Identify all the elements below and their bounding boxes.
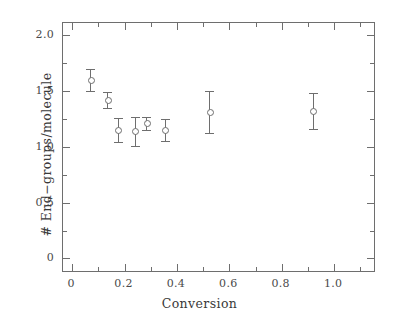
data-marker — [132, 128, 139, 135]
y-tick-major — [63, 91, 70, 92]
y-tick-minor-right — [370, 63, 374, 64]
y-tick-major — [63, 258, 70, 259]
x-tick-label: 0.4 — [167, 277, 185, 290]
error-bar-cap-upper — [103, 92, 112, 93]
x-tick-major — [72, 264, 73, 271]
data-marker — [162, 127, 169, 134]
x-tick-minor-top — [98, 23, 99, 27]
x-tick-major-top — [125, 23, 126, 30]
y-tick-major — [63, 147, 70, 148]
y-tick-minor — [63, 63, 67, 64]
error-bar-cap-lower — [142, 130, 151, 131]
y-tick-minor — [63, 119, 67, 120]
error-bar-cap-upper — [309, 93, 318, 94]
x-tick-label: 0 — [68, 277, 75, 290]
data-marker — [144, 120, 151, 127]
y-tick-major-right — [367, 147, 374, 148]
y-tick-minor-right — [370, 175, 374, 176]
y-tick-major-right — [367, 35, 374, 36]
x-tick-major-top — [229, 23, 230, 30]
x-tick-major — [229, 264, 230, 271]
x-tick-major-top — [177, 23, 178, 30]
x-tick-label: 0.6 — [219, 277, 237, 290]
y-tick-major-right — [367, 258, 374, 259]
error-bar-cap-lower — [103, 108, 112, 109]
x-tick-minor-top — [360, 23, 361, 27]
data-marker — [105, 97, 112, 104]
x-tick-label: 0.2 — [114, 277, 132, 290]
x-tick-minor-top — [256, 23, 257, 27]
error-bar-cap-lower — [205, 133, 214, 134]
y-tick-major-right — [367, 203, 374, 204]
error-bar-cap-upper — [142, 117, 151, 118]
y-tick-minor-right — [370, 119, 374, 120]
y-tick-minor — [63, 231, 67, 232]
x-tick-minor-top — [151, 23, 152, 27]
error-bar-cap-lower — [309, 129, 318, 130]
y-tick-major — [63, 35, 70, 36]
figure: 00.20.40.60.81.0 00.51.01.52.0 Conversio… — [0, 0, 399, 327]
data-marker — [115, 127, 122, 134]
error-bar-cap-lower — [161, 141, 170, 142]
x-tick-label: 0.8 — [272, 277, 290, 290]
x-tick-minor — [360, 267, 361, 271]
y-tick-minor — [63, 175, 67, 176]
x-tick-label: 1.0 — [324, 277, 342, 290]
error-bar-cap-lower — [86, 91, 95, 92]
x-tick-major — [334, 264, 335, 271]
x-tick-major — [125, 264, 126, 271]
x-tick-major — [282, 264, 283, 271]
error-bar-cap-lower — [131, 146, 140, 147]
x-tick-minor-top — [308, 23, 309, 27]
y-tick-major-right — [367, 91, 374, 92]
x-tick-major — [177, 264, 178, 271]
x-tick-minor-top — [203, 23, 204, 27]
data-marker — [88, 77, 95, 84]
x-tick-minor — [203, 267, 204, 271]
y-tick-major — [63, 203, 70, 204]
data-marker — [207, 109, 214, 116]
error-bar-cap-upper — [114, 118, 123, 119]
x-tick-major-top — [334, 23, 335, 30]
plot-frame — [62, 22, 375, 272]
x-tick-minor — [308, 267, 309, 271]
x-tick-major-top — [72, 23, 73, 30]
error-bar-cap-upper — [86, 69, 95, 70]
y-axis-title: # End−groups/molecule — [39, 30, 54, 280]
error-bar-cap-upper — [131, 117, 140, 118]
error-bar-cap-upper — [205, 91, 214, 92]
x-tick-minor — [98, 267, 99, 271]
x-tick-minor — [256, 267, 257, 271]
x-axis-title: Conversion — [0, 296, 399, 311]
x-tick-minor — [151, 267, 152, 271]
error-bar-cap-upper — [161, 119, 170, 120]
x-tick-major-top — [282, 23, 283, 30]
error-bar-cap-lower — [114, 142, 123, 143]
data-marker — [310, 108, 317, 115]
y-tick-minor-right — [370, 231, 374, 232]
